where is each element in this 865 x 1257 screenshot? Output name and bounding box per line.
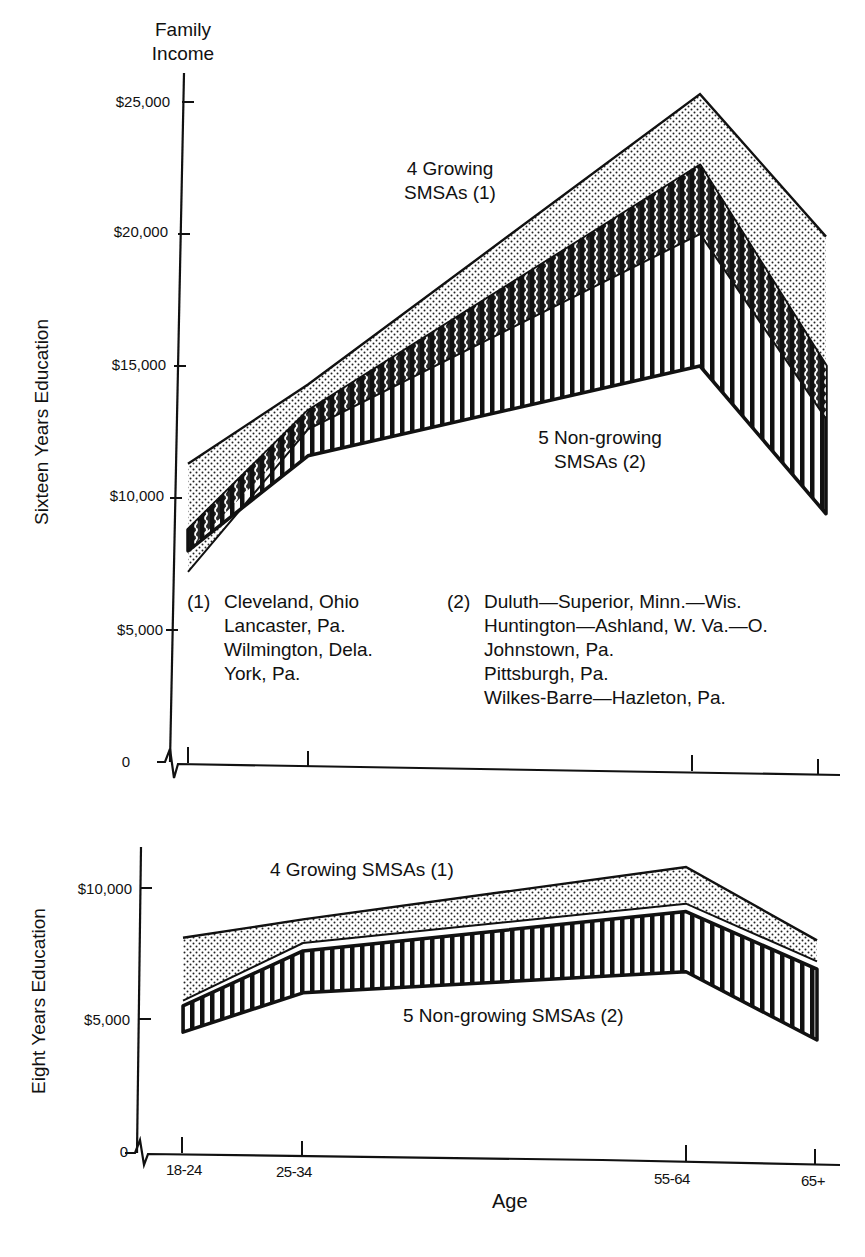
x-tick-label: 18-24 [166,1161,202,1178]
lower-nongrowing-label: 5 Non-growing SMSAs (2) [403,1004,624,1028]
lower-x-axis [125,1140,840,1165]
footnote-marker-2: (2) [447,590,470,614]
upper-tick-15000: $15,000 [56,356,166,373]
footnote-1-line: Lancaster, Pa. [224,614,373,638]
x-axis-title: Age [492,1190,528,1213]
x-tick-label: 25-34 [276,1163,312,1180]
footnote-2-line: Wilkes-Barre—Hazleton, Pa. [484,686,768,710]
upper-tick-0: 0 [20,753,130,770]
upper-nongrowing-label: 5 Non-growing SMSAs (2) [505,426,695,474]
upper-tick-25000: $25,000 [60,93,170,110]
x-tick-label: 55-64 [654,1170,690,1187]
lower-tick-10000: $10,000 [22,880,132,897]
footnote-1-line: York, Pa. [224,662,373,686]
y-axis-title: Family Income [118,18,248,66]
upper-tick-20000: $20,000 [58,223,168,240]
upper-x-axis [157,749,840,778]
lower-side-label: Eight Years Education [28,908,50,1094]
lower-growing-label: 4 Growing SMSAs (1) [270,858,454,882]
footnote-2-line: Duluth—Superior, Minn.—Wis. [484,590,768,614]
footnote-2-line: Johnstown, Pa. [484,638,768,662]
footnote-2-line: Pittsburgh, Pa. [484,662,768,686]
lower-x-ticks [182,1137,815,1165]
upper-tick-5000: $5,000 [53,621,163,638]
upper-side-label: Sixteen Years Education [31,319,53,525]
upper-x-ticks [188,747,818,775]
footnote-2-line: Huntington—Ashland, W. Va.—O. [484,614,768,638]
y-axis-title-line2: Income [118,42,248,66]
upper-y-axis [170,73,184,762]
upper-tick-10000: $10,000 [54,487,164,504]
x-tick-label: 65+ [801,1172,825,1189]
upper-growing-label: 4 Growing SMSAs (1) [370,157,530,205]
lower-tick-0: 0 [18,1143,128,1160]
y-axis-title-line1: Family [118,18,248,42]
footnote-1-line: Cleveland, Ohio [224,590,373,614]
lower-y-axis [137,847,141,1153]
footnote-1-line: Wilmington, Dela. [224,638,373,662]
footnote-marker-1: (1) [187,590,210,614]
